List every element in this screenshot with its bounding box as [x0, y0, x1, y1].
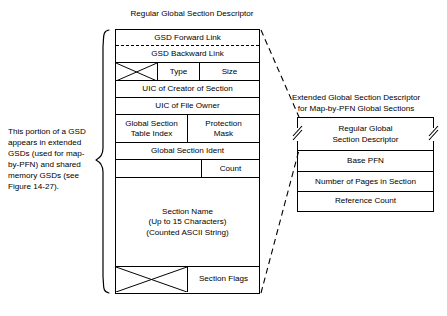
field-regular-global-section-descriptor: Regular Global Section Descriptor [298, 118, 433, 151]
table-row-count: Count [116, 160, 259, 178]
field-regular-gsd-ref-line1: Regular Global [339, 124, 393, 134]
figure-canvas: Regular Global Section Descriptor Extend… [0, 0, 447, 316]
table-row-backward-link: GSD Backward Link [116, 46, 259, 63]
field-count: Count [201, 160, 259, 178]
table-row-index-protection: Global Section Table Index Protection Ma… [116, 115, 259, 143]
field-regular-gsd-ref-line2: Section Descriptor [332, 135, 398, 145]
table-row-section-flags: Section Flags [116, 267, 259, 292]
table-row-number-of-pages: Number of Pages in Section [298, 172, 433, 192]
field-gsd-forward-link: GSD Forward Link [116, 30, 259, 46]
field-size: Size [200, 63, 259, 81]
field-uic-of-creator-of-section: UIC of Creator of Section [116, 81, 259, 98]
field-gsd-backward-link: GSD Backward Link [116, 46, 259, 63]
portion-brace [96, 30, 109, 293]
table-row-uic-creator: UIC of Creator of Section [116, 81, 259, 98]
field-section-name-line2: (Up to 15 Characters) [149, 217, 227, 227]
table-row-type-size: Type Size [116, 63, 259, 81]
field-protection-mask-line2: Mask [214, 129, 233, 139]
table-row-section-name: Section Name (Up to 15 Characters) (Coun… [116, 178, 259, 267]
field-count-spacer [116, 160, 201, 178]
portion-caption: This portion of a GSD appears in extende… [8, 126, 94, 193]
field-number-of-pages-in-section: Number of Pages in Section [298, 172, 433, 192]
regular-gsd-table: GSD Forward Link GSD Backward Link Type … [115, 29, 260, 294]
field-section-name: Section Name (Up to 15 Characters) (Coun… [116, 178, 259, 267]
field-section-name-line3: (Counted ASCII String) [146, 228, 228, 238]
field-uic-of-file-owner: UIC of File Owner [116, 98, 259, 115]
field-base-pfn: Base PFN [298, 151, 433, 172]
table-row-forward-link: GSD Forward Link [116, 30, 259, 46]
connector-line-bottom [261, 150, 299, 293]
table-row-base-pfn: Base PFN [298, 151, 433, 172]
field-global-section-table-index-line2: Table Index [131, 129, 172, 139]
field-section-name-line1: Section Name [162, 207, 213, 217]
field-reference-count: Reference Count [298, 192, 433, 211]
regular-gsd-title: Regular Global Section Descriptor [111, 9, 273, 18]
extended-gsd-title: Extended Global Section Descriptor for M… [268, 93, 444, 114]
field-section-flags: Section Flags [188, 267, 259, 292]
table-row-regular-gsd-ref: Regular Global Section Descriptor [298, 118, 433, 151]
extended-gsd-table: Regular Global Section Descriptor Base P… [297, 117, 434, 212]
table-row-global-section-ident: Global Section Ident [116, 143, 259, 160]
table-row-reference-count: Reference Count [298, 192, 433, 211]
field-unused-crossed-out-upper [116, 63, 158, 81]
field-global-section-table-index: Global Section Table Index [116, 115, 188, 143]
extended-gsd-title-line2: for Map-by-PFN Global Sections [268, 104, 444, 115]
extended-gsd-title-line1: Extended Global Section Descriptor [268, 93, 444, 104]
field-type: Type [158, 63, 200, 81]
field-global-section-ident: Global Section Ident [116, 143, 259, 160]
field-global-section-table-index-line1: Global Section [125, 119, 178, 129]
field-protection-mask: Protection Mask [188, 115, 259, 143]
table-row-uic-owner: UIC of File Owner [116, 98, 259, 115]
field-protection-mask-line1: Protection [205, 119, 241, 129]
field-unused-crossed-out-lower [116, 267, 188, 292]
